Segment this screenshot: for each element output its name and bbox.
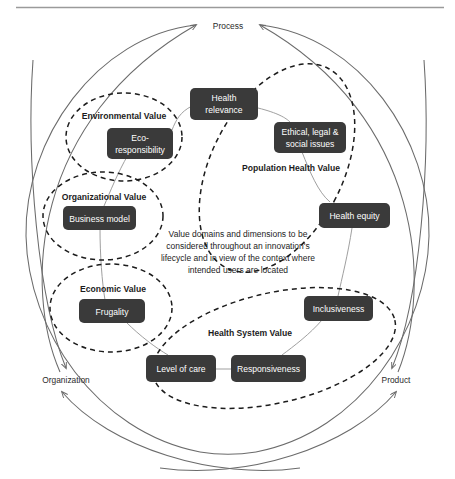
label-health-system-value: Health System Value	[208, 328, 292, 338]
label-organization: Organization	[42, 375, 90, 385]
node-inclusiveness[interactable]: Inclusiveness	[304, 296, 373, 321]
label-organizational-value: Organizational Value	[62, 192, 147, 202]
node-responsiveness[interactable]: Responsiveness	[231, 355, 306, 382]
diagram-svg: Health relevance Ethical, legal & social…	[0, 0, 455, 479]
node-frugality[interactable]: Frugality	[79, 299, 145, 323]
label-population-health-value: Population Health Value	[242, 163, 340, 173]
connector-health-relevance-to-eco	[172, 106, 192, 130]
arc-bottom-to-organization	[62, 392, 300, 471]
node-inclusiveness-label: Inclusiveness	[313, 304, 365, 314]
node-frugality-label: Frugality	[96, 307, 130, 317]
center-note-line-2: considered throughout an innovation's	[166, 241, 309, 251]
node-health-relevance-line-1: Health	[212, 93, 237, 103]
node-health-equity-label: Health equity	[329, 211, 380, 221]
arc-to-product	[392, 60, 426, 368]
label-process: Process	[213, 21, 243, 31]
node-business-model[interactable]: Business model	[63, 206, 136, 230]
node-level-of-care[interactable]: Level of care	[146, 355, 216, 382]
node-ethical-legal-social[interactable]: Ethical, legal & social issues	[274, 122, 346, 153]
connector-health-relevance-to-ethical	[258, 108, 290, 122]
arc-to-organization	[31, 60, 66, 368]
center-note-line-4: intended users are located	[188, 265, 288, 275]
ellipse-health-system-value	[141, 267, 407, 430]
label-product: Product	[382, 375, 412, 385]
node-responsiveness-label: Responsiveness	[237, 364, 300, 374]
connector-ethical-to-health-equity	[302, 152, 330, 202]
label-environmental-value: Environmental Value	[82, 111, 167, 121]
label-economic-value: Economic Value	[80, 284, 146, 294]
node-health-equity[interactable]: Health equity	[319, 203, 390, 228]
node-eco-responsibility[interactable]: Eco- responsibility	[107, 128, 173, 159]
center-note-line-1: Value domains and dimensions to be	[169, 229, 308, 239]
connector-health-equity-to-inclusiveness	[338, 228, 352, 296]
node-eco-responsibility-line-2: responsibility	[115, 145, 165, 155]
node-ethical-legal-social-line-1: Ethical, legal &	[282, 127, 339, 137]
connector-frugality-to-level	[126, 322, 168, 355]
figure-canvas: Health relevance Ethical, legal & social…	[0, 0, 455, 479]
node-level-of-care-label: Level of care	[156, 364, 205, 374]
node-ethical-legal-social-line-2: social issues	[286, 139, 335, 149]
node-health-relevance-line-2: relevance	[205, 105, 242, 115]
center-note-line-3: lifecycle and in view of the context whe…	[161, 253, 315, 263]
node-business-model-label: Business model	[69, 214, 130, 224]
center-note: Value domains and dimensions to be consi…	[161, 229, 315, 275]
outer-circle-bottom	[200, 452, 256, 454]
node-health-relevance[interactable]: Health relevance	[190, 88, 258, 120]
node-eco-responsibility-line-1: Eco-	[131, 133, 149, 143]
